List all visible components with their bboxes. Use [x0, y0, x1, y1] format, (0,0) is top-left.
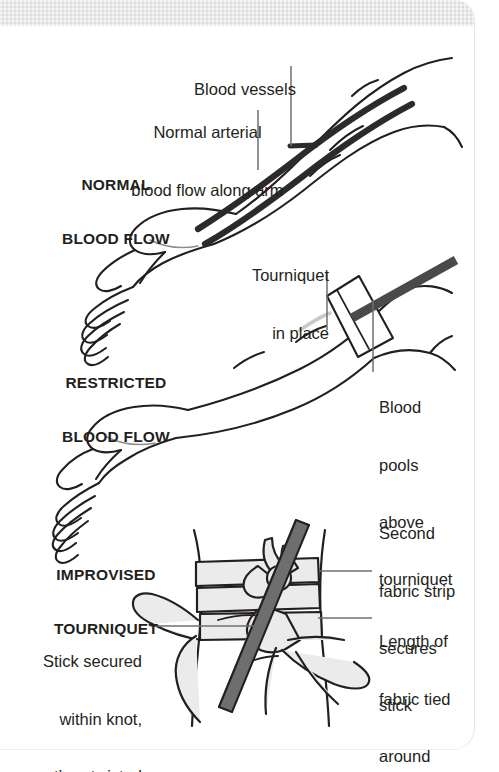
callout-length-of-fabric-line3: around [379, 747, 499, 766]
panel-title-restricted: RESTRICTED BLOOD FLOW [36, 338, 196, 482]
callout-stick-secured-line3: then twisted [6, 767, 142, 772]
callout-normal-arterial-flow-line2: blood flow along arm [110, 181, 305, 200]
callout-normal-arterial-flow-line1: Normal arterial [110, 123, 305, 142]
callout-stick-secured-line1: Stick secured [6, 652, 142, 671]
callout-length-of-fabric-line1: Length of [379, 632, 499, 651]
figure-page: NORMAL BLOOD FLOW Blood vessels Normal a… [0, 0, 499, 772]
panel-title-restricted-line1: RESTRICTED [36, 374, 196, 392]
panel-title-improvised-line1: IMPROVISED [26, 566, 186, 584]
callout-blood-pools-line1: Blood [379, 398, 497, 417]
callout-normal-arterial-flow: Normal arterial blood flow along arm [110, 85, 305, 238]
callout-length-of-fabric: Length of fabric tied around limb [379, 594, 499, 772]
callout-tourniquet-in-place-line2: in place [197, 324, 329, 343]
callout-stick-secured: Stick secured within knot, then twisted … [6, 614, 142, 772]
panel-title-restricted-line2: BLOOD FLOW [36, 428, 196, 446]
callout-stick-secured-line2: within knot, [6, 710, 142, 729]
callout-blood-pools-line2: pools [379, 456, 497, 475]
callout-second-fabric-strip-line1: Second [379, 524, 499, 543]
callout-length-of-fabric-line2: fabric tied [379, 690, 499, 709]
callout-tourniquet-in-place: Tourniquet in place [197, 228, 329, 381]
callout-tourniquet-in-place-line1: Tourniquet [197, 266, 329, 285]
